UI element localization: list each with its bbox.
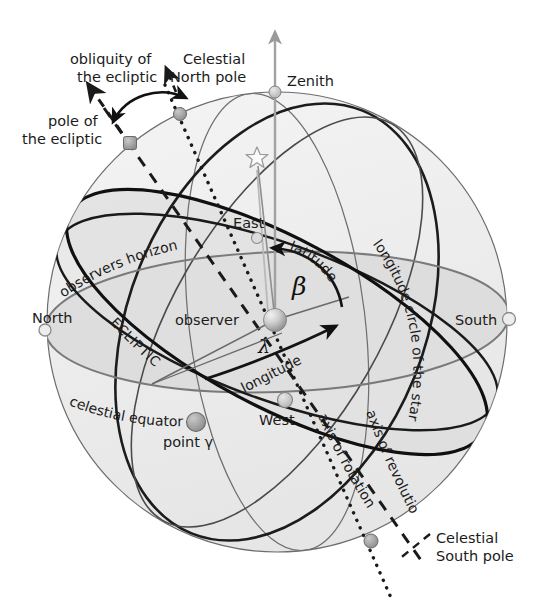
label-obliquity-line1: obliquity of <box>70 51 152 67</box>
label-celestial-north-pole-line1: Celestial <box>183 51 245 67</box>
point-gamma-marker <box>187 413 206 432</box>
west-point-marker <box>278 393 293 408</box>
observer-sphere-marker <box>264 309 287 332</box>
celestial-south-pole-marker <box>364 534 378 548</box>
label-celestial-south-pole-line2: South pole <box>436 548 514 564</box>
label-lambda-symbol: λ <box>257 335 270 357</box>
label-obliquity-line2: the ecliptic <box>77 69 157 85</box>
south-point-marker <box>503 313 516 326</box>
celestial-sphere-diagram: obliquity of the ecliptic Celestial Nort… <box>0 0 541 612</box>
label-east: East <box>233 215 265 231</box>
label-west: West <box>259 412 295 428</box>
pole-of-the-ecliptic-marker <box>124 137 137 150</box>
label-point-gamma: point γ <box>163 434 214 450</box>
label-north: North <box>32 310 73 326</box>
label-pole-of-ecliptic-line1: pole of <box>48 113 99 129</box>
diagram-canvas: obliquity of the ecliptic Celestial Nort… <box>0 0 541 612</box>
label-pole-of-ecliptic-line2: the ecliptic <box>22 131 102 147</box>
celestial-north-pole-marker <box>174 108 187 121</box>
east-point-marker <box>252 233 263 244</box>
zenith-marker <box>269 86 281 98</box>
label-south: South <box>455 312 497 328</box>
label-observer: observer <box>175 312 239 328</box>
label-celestial-north-pole-line2: North pole <box>170 69 246 85</box>
label-zenith: Zenith <box>287 73 334 89</box>
label-beta-symbol: β <box>291 272 306 301</box>
celestial-south-pole-pointer <box>398 534 430 560</box>
label-celestial-south-pole-line1: Celestial <box>436 530 498 546</box>
